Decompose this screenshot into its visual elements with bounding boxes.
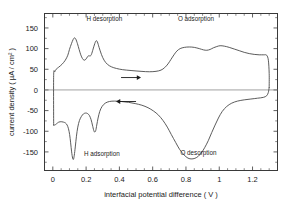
cathodic-sweep-curve (54, 87, 270, 159)
y-axis-title: current density ( µA / cm² ) (7, 47, 16, 136)
reverse-sweep-arrow-head (116, 99, 120, 104)
x-axis-title: interfacial potential difference ( V ) (104, 190, 218, 199)
chart-canvas: 00.20.40.60.811.2150100500-50-100-150 H … (0, 0, 288, 202)
peak-annotations: H desorptionO adsorptionH adsorptionO de… (84, 15, 217, 159)
sweep-direction-arrows (116, 75, 141, 104)
x-tick-label: 1.2 (247, 175, 257, 184)
y-tick-label: -150 (23, 148, 38, 157)
y-tick-label: -100 (23, 127, 38, 136)
x-tick-label: 0.6 (147, 175, 157, 184)
axes-group: 00.20.40.60.811.2150100500-50-100-150 (23, 14, 278, 185)
x-tick-label: 0 (51, 175, 55, 184)
annotation-h-adsorption: H adsorption (84, 150, 120, 158)
y-tick-label: 100 (25, 44, 38, 53)
plot-frame (45, 14, 278, 171)
forward-sweep-arrow-head (137, 75, 141, 80)
x-tick-label: 1 (217, 175, 221, 184)
x-tick-label: 0.2 (81, 175, 91, 184)
cyclic-voltammogram-figure: 00.20.40.60.811.2150100500-50-100-150 H … (0, 0, 288, 202)
annotation-o-adsorption: O adsorption (178, 15, 215, 23)
voltammogram-curves (54, 38, 270, 160)
y-tick-label: 150 (25, 24, 38, 33)
x-tick-label: 0.8 (181, 175, 191, 184)
anodic-sweep-curve (54, 38, 270, 125)
annotation-o-desorption: O desorption (180, 149, 217, 157)
y-tick-label: -50 (27, 106, 38, 115)
annotation-h-desorption: H desorption (87, 15, 123, 23)
y-tick-label: 0 (34, 86, 38, 95)
x-tick-label: 0.4 (114, 175, 124, 184)
y-tick-label: 50 (30, 65, 38, 74)
